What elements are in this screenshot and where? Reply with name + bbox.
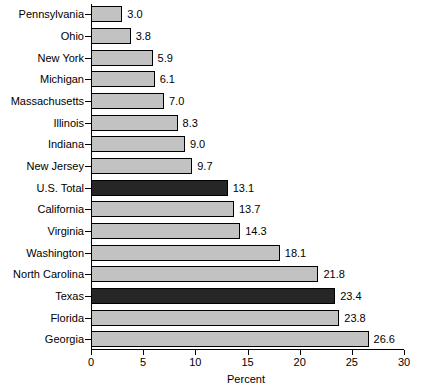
bar [91, 115, 178, 131]
y-tick-label: Ohio [61, 31, 84, 42]
bar-value-label: 7.0 [169, 96, 184, 107]
x-tickmark [300, 350, 301, 355]
bar [91, 245, 280, 261]
x-tick-label: 10 [175, 357, 215, 368]
y-tick-label: Massachusetts [11, 96, 84, 107]
bar [91, 288, 335, 304]
bar [91, 50, 153, 66]
x-axis-title-text: Percent [227, 373, 265, 385]
y-tick-label: California [38, 204, 84, 215]
x-tickmark [91, 350, 92, 355]
y-tick-label: Texas [55, 291, 84, 302]
y-tick-label: Indiana [48, 139, 84, 150]
x-tick-label: 25 [332, 357, 372, 368]
x-tickmark [248, 350, 249, 355]
y-tick-label: Virginia [48, 226, 85, 237]
bar-value-label: 3.8 [136, 31, 151, 42]
y-tick-label: Pennsylvania [19, 9, 84, 20]
x-tickmark [195, 350, 196, 355]
bar-value-label: 8.3 [183, 118, 198, 129]
bar [91, 201, 234, 217]
bar-value-label: 9.7 [197, 161, 212, 172]
x-tick-label: 5 [123, 357, 163, 368]
bar [91, 28, 131, 44]
y-tick-label: U.S. Total [37, 183, 85, 194]
bar-value-label: 23.4 [340, 291, 361, 302]
y-tick-label: Michigan [40, 74, 84, 85]
bar-value-label: 21.8 [323, 269, 344, 280]
x-tickmark [352, 350, 353, 355]
bar-value-label: 3.0 [127, 9, 142, 20]
bar [91, 180, 228, 196]
bar-value-label: 13.7 [239, 204, 260, 215]
bar [91, 331, 369, 347]
bar-chart: Pennsylvania Ohio New York Michigan Mass… [0, 0, 422, 392]
y-tick-label: New Jersey [27, 161, 84, 172]
bar-value-label: 23.8 [344, 313, 365, 324]
bar [91, 93, 164, 109]
y-tick-label: Washington [26, 248, 84, 259]
bar [91, 223, 240, 239]
y-tick-label: Georgia [45, 334, 84, 345]
bar-value-label: 18.1 [285, 248, 306, 259]
x-tickmark [404, 350, 405, 355]
bar [91, 266, 318, 282]
x-tickmark [143, 350, 144, 355]
y-axis-line [91, 4, 92, 349]
x-axis-title: Percent [0, 374, 422, 385]
bar [91, 136, 185, 152]
y-tick-label: New York [38, 53, 84, 64]
y-tick-label: Illinois [53, 118, 84, 129]
x-tick-label: 30 [384, 357, 422, 368]
bar-value-label: 5.9 [158, 53, 173, 64]
bar-value-label: 9.0 [190, 139, 205, 150]
y-tick-label: Florida [50, 313, 84, 324]
x-tick-label: 20 [280, 357, 320, 368]
bar-value-label: 14.3 [245, 226, 266, 237]
bar-value-label: 26.6 [374, 334, 395, 345]
bar-value-label: 13.1 [233, 183, 254, 194]
bar [91, 158, 192, 174]
bar [91, 6, 122, 22]
x-tick-label: 15 [228, 357, 268, 368]
bar-value-label: 6.1 [160, 74, 175, 85]
bar [91, 310, 339, 326]
x-tick-label: 0 [71, 357, 111, 368]
bar [91, 71, 155, 87]
y-tick-label: North Carolina [13, 269, 84, 280]
